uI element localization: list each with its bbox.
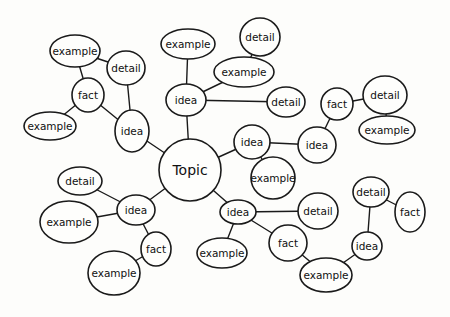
node-label: idea <box>125 204 147 216</box>
node-idea: idea <box>117 195 155 225</box>
node-label: idea <box>121 125 143 137</box>
node-label: fact <box>278 237 298 249</box>
node-example: example <box>24 112 76 140</box>
node-label: detail <box>245 31 275 43</box>
node-example: example <box>88 251 140 295</box>
node-label: fact <box>400 206 420 218</box>
node-example: example <box>40 201 98 243</box>
node-label: detail <box>370 89 400 101</box>
node-label: idea <box>306 139 328 151</box>
node-label: idea <box>241 136 263 148</box>
node-idea: idea <box>220 200 256 224</box>
node-detail: detail <box>58 167 102 195</box>
node-label: fact <box>78 89 98 101</box>
node-detail: detail <box>363 76 407 114</box>
node-idea: idea <box>234 125 270 159</box>
node-fact: fact <box>395 192 425 232</box>
node-detail: detail <box>267 87 305 117</box>
node-label: idea <box>227 206 249 218</box>
node-label: detail <box>303 205 333 217</box>
node-example: example <box>50 35 100 67</box>
node-label: example <box>199 247 244 259</box>
node-idea: idea <box>115 110 149 152</box>
node-label: example <box>91 267 136 279</box>
node-label: example <box>46 216 91 228</box>
node-label: fact <box>146 243 166 255</box>
node-label: detail <box>356 186 386 198</box>
node-label: example <box>221 66 266 78</box>
node-example: example <box>214 57 274 87</box>
node-detail: detail <box>298 193 338 229</box>
topic-node: Topic <box>159 139 221 201</box>
node-layer: Topicideaexampleexampledetaildetailidead… <box>24 18 425 295</box>
node-label: detail <box>271 96 301 108</box>
node-label: idea <box>356 240 378 252</box>
node-example: example <box>359 116 415 144</box>
node-label: detail <box>65 175 95 187</box>
node-label: example <box>303 269 348 281</box>
node-label: Topic <box>171 162 207 178</box>
node-label: example <box>250 172 295 184</box>
node-label: idea <box>175 94 197 106</box>
node-idea: idea <box>352 232 382 260</box>
mind-map-canvas: Topicideaexampleexampledetaildetailidead… <box>0 0 450 317</box>
node-label: example <box>27 120 72 132</box>
node-example: example <box>197 238 247 268</box>
node-label: fact <box>327 98 347 110</box>
node-detail: detail <box>240 18 280 56</box>
node-fact: fact <box>72 78 104 112</box>
node-idea: idea <box>166 84 206 116</box>
node-detail: detail <box>107 51 145 85</box>
node-label: example <box>364 124 409 136</box>
node-fact: fact <box>141 232 171 266</box>
node-example: example <box>161 29 215 59</box>
node-label: example <box>165 38 210 50</box>
node-example: example <box>300 258 352 292</box>
node-example: example <box>250 157 295 199</box>
mind-map-diagram: Topicideaexampleexampledetaildetailidead… <box>0 0 450 317</box>
node-detail: detail <box>353 177 389 207</box>
node-fact: fact <box>321 88 353 120</box>
node-fact: fact <box>269 225 307 261</box>
node-label: example <box>52 45 97 57</box>
node-idea: idea <box>298 127 336 163</box>
node-label: detail <box>111 62 141 74</box>
